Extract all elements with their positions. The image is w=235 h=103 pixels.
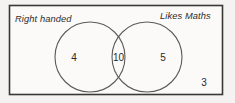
outside-count: 3	[201, 77, 207, 88]
venn-diagram-figure: Right handed Likes Maths 4 10 5 3	[0, 0, 235, 103]
right-only-count: 5	[160, 52, 166, 63]
left-set-label: Right handed	[15, 14, 72, 24]
right-set-label: Likes Maths	[160, 11, 211, 21]
venn-diagram-canvas: Right handed Likes Maths 4 10 5 3	[0, 0, 235, 103]
intersection-count: 10	[113, 52, 125, 63]
left-only-count: 4	[71, 52, 77, 63]
